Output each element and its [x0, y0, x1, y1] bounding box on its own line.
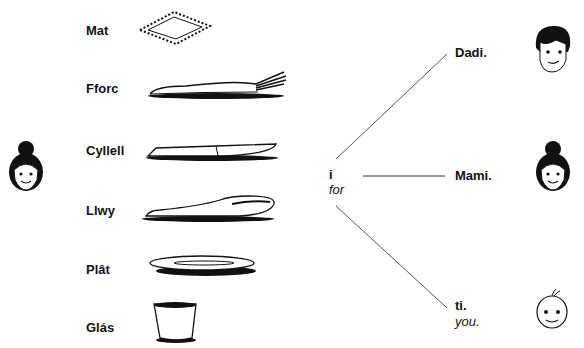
target-ti-english: you. [455, 314, 480, 329]
target-dadi: Dadi. [455, 45, 487, 60]
father-face-icon [532, 22, 574, 76]
mother-face-icon [532, 140, 574, 196]
baby-face-icon [532, 288, 572, 332]
preposition-welsh: i [329, 167, 333, 182]
connector-lines [0, 0, 584, 348]
target-ti: ti. [455, 298, 467, 313]
preposition-english: for [329, 182, 344, 197]
target-mami: Mami. [455, 168, 492, 183]
